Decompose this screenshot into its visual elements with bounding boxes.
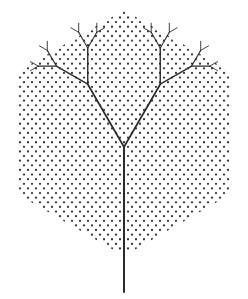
lattice-dot <box>175 183 177 185</box>
lattice-dot <box>119 63 121 65</box>
lattice-dot <box>227 123 229 125</box>
lattice-dot <box>175 192 177 194</box>
lattice-dot <box>103 229 105 231</box>
lattice-dot <box>199 118 201 120</box>
lattice-dot <box>103 164 105 166</box>
lattice-dot <box>147 215 149 217</box>
lattice-dot <box>167 210 169 212</box>
lattice-dot <box>119 100 121 102</box>
lattice-dot <box>107 169 109 171</box>
lattice-dot <box>71 164 73 166</box>
lattice-dot <box>67 58 69 60</box>
lattice-dot <box>87 136 89 138</box>
lattice-dot <box>127 220 129 222</box>
lattice-dot <box>47 201 49 203</box>
lattice-dot <box>31 127 33 129</box>
lattice-dot <box>103 210 105 212</box>
lattice-dot <box>71 109 73 111</box>
lattice-dot <box>47 118 49 120</box>
lattice-dot <box>119 53 121 55</box>
lattice-dot <box>91 160 93 162</box>
lattice-dot <box>227 178 229 180</box>
lattice-dot <box>95 118 97 120</box>
lattice-dot <box>75 113 77 115</box>
lattice-dot <box>131 215 133 217</box>
lattice-dot <box>71 63 73 65</box>
lattice-dot <box>139 123 141 125</box>
lattice-dot <box>51 123 53 125</box>
lattice-dot <box>63 72 65 74</box>
lattice-dot <box>43 178 45 180</box>
lattice-dot <box>115 243 117 245</box>
lattice-dot <box>171 58 173 60</box>
lattice-dot <box>199 63 201 65</box>
lattice-dot <box>171 215 173 217</box>
lattice-dot <box>87 35 89 37</box>
lattice-dot <box>23 136 25 138</box>
lattice-dot <box>103 146 105 148</box>
lattice-dot <box>219 123 221 125</box>
lattice-dot <box>135 72 137 74</box>
lattice-dot <box>59 169 61 171</box>
lattice-dot <box>87 220 89 222</box>
lattice-dot <box>179 58 181 60</box>
lattice-dot <box>183 100 185 102</box>
lattice-dot <box>191 210 193 212</box>
lattice-dot <box>19 104 21 106</box>
lattice-dot <box>67 160 69 162</box>
lattice-dot <box>171 224 173 226</box>
lattice-dot <box>143 53 145 55</box>
lattice-dot <box>207 72 209 74</box>
lattice-dot <box>171 150 173 152</box>
lattice-dot <box>83 123 85 125</box>
lattice-dot <box>119 229 121 231</box>
lattice-dot <box>67 150 69 152</box>
lattice-dot <box>31 173 33 175</box>
lattice-dot <box>107 224 109 226</box>
lattice-dot <box>23 72 25 74</box>
lattice-dot <box>163 113 165 115</box>
lattice-dot <box>211 104 213 106</box>
lattice-dot <box>127 63 129 65</box>
lattice-dot <box>55 164 57 166</box>
lattice-dot <box>47 155 49 157</box>
lattice-dot <box>155 197 157 199</box>
lattice-dot <box>211 76 213 78</box>
lattice-dot <box>159 229 161 231</box>
lattice-dot <box>195 150 197 152</box>
lattice-dot <box>111 146 113 148</box>
lattice-dot <box>219 187 221 189</box>
lattice-dot <box>95 109 97 111</box>
lattice-dot <box>127 81 129 83</box>
lattice-dot <box>111 164 113 166</box>
lattice-dot <box>91 104 93 106</box>
lattice-dot <box>195 169 197 171</box>
lattice-dot <box>27 123 29 125</box>
lattice-dot <box>87 118 89 120</box>
lattice-dot <box>179 206 181 208</box>
lattice-dot <box>55 192 57 194</box>
lattice-dot <box>179 95 181 97</box>
lattice-dot <box>55 118 57 120</box>
lattice-dot <box>179 123 181 125</box>
lattice-dot <box>91 141 93 143</box>
lattice-dot <box>195 141 197 143</box>
lattice-dot <box>127 210 129 212</box>
lattice-dot <box>155 141 157 143</box>
lattice-dot <box>211 123 213 125</box>
lattice-dot <box>63 146 65 148</box>
lattice-dot <box>203 58 205 60</box>
lattice-dot <box>199 81 201 83</box>
lattice-dot <box>127 173 129 175</box>
lattice-dot <box>51 150 53 152</box>
lattice-dot <box>187 104 189 106</box>
lattice-dot <box>135 229 137 231</box>
lattice-dot <box>43 67 45 69</box>
lattice-dot <box>99 178 101 180</box>
lattice-dot <box>183 146 185 148</box>
lattice-dot <box>183 183 185 185</box>
lattice-dot <box>71 173 73 175</box>
lattice-dot <box>111 220 113 222</box>
lattice-dot <box>67 67 69 69</box>
lattice-dot <box>223 173 225 175</box>
